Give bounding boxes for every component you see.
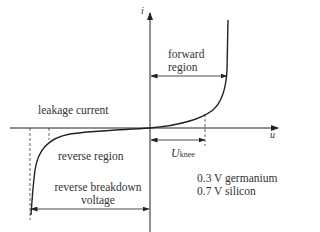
u-axis-label: u — [270, 128, 275, 141]
germanium-value: 0.3 V germanium — [197, 172, 277, 185]
forward-curve — [150, 20, 228, 128]
reverse-breakdown-label: reverse breakdown voltage — [48, 181, 148, 207]
reverse-region-label: reverse region — [58, 150, 123, 163]
i-axis-label: i — [141, 4, 144, 17]
silicon-value: 0.7 V silicon — [197, 185, 277, 198]
forward-region-label: forward region — [168, 48, 204, 74]
u-knee-label: Uknee — [171, 147, 195, 161]
knee-voltage-values: 0.3 V germanium 0.7 V silicon — [197, 172, 277, 198]
leakage-current-label: leakage current — [38, 104, 109, 117]
